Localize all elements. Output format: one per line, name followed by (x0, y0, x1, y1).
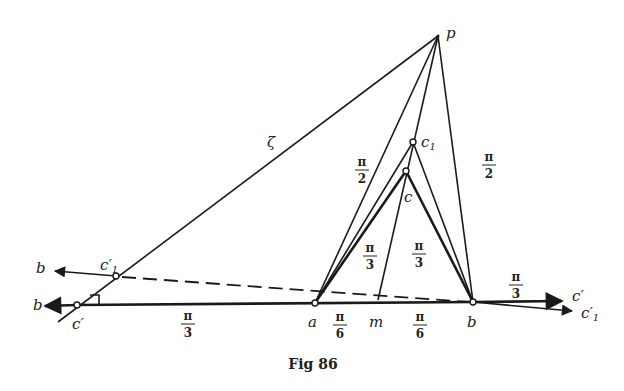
point-a (312, 300, 318, 306)
lower-right-arrow (473, 302, 572, 311)
svg-text:π: π (366, 241, 375, 255)
point-c1 (410, 139, 416, 145)
label-b: b (467, 313, 477, 331)
svg-text:2: 2 (358, 172, 366, 186)
label-zeta: ζ (267, 133, 276, 151)
fig-86-diagram: p c1 c a m b c′ c′1 ζ b b c′ c′1 π 2 π 2… (0, 0, 624, 391)
label-p: p (446, 24, 456, 42)
svg-text:2: 2 (485, 167, 493, 181)
label-c: c (404, 188, 413, 206)
label-b-left-lower: b (33, 296, 43, 314)
svg-text:3: 3 (184, 326, 192, 340)
point-p (437, 35, 440, 38)
label-c1: c1 (421, 133, 436, 152)
svg-text:π: π (512, 270, 521, 284)
angle-pi-3-baseline: π 3 (181, 309, 195, 340)
svg-text:π: π (358, 155, 367, 169)
baseline (77, 302, 473, 305)
label-a: a (308, 313, 317, 331)
label-c-prime: c′ (72, 315, 84, 333)
svg-text:3: 3 (366, 258, 374, 272)
label-b-left-upper: b (36, 259, 46, 277)
point-b (470, 299, 476, 305)
label-c1-prime: c′1 (100, 256, 118, 275)
svg-text:π: π (184, 309, 193, 323)
baseline-right-arrow (473, 301, 562, 302)
line-c1-b (413, 142, 473, 302)
svg-text:6: 6 (416, 327, 424, 341)
svg-text:π: π (336, 310, 345, 324)
svg-text:π: π (415, 239, 424, 253)
svg-text:6: 6 (336, 327, 344, 341)
svg-text:π: π (416, 310, 425, 324)
svg-text:3: 3 (415, 256, 423, 270)
angle-pi-2-right: π 2 (482, 150, 496, 181)
line-c-b (406, 171, 473, 302)
dashed-line-c1prime-b (122, 277, 470, 302)
label-c-prime-right: c′ (572, 287, 584, 305)
baseline-left-arrow (45, 305, 77, 306)
angle-pi-3-right-of-cm: π 3 (412, 239, 426, 270)
angle-pi-2-left: π 2 (355, 155, 369, 186)
line-p-b (438, 36, 473, 302)
point-c (403, 168, 409, 174)
label-c1-prime-right: c′1 (581, 304, 599, 323)
svg-text:3: 3 (512, 287, 520, 301)
svg-text:π: π (485, 150, 494, 164)
angle-pi-6-m-b: π 6 (413, 310, 427, 341)
angle-pi-3-left-of-cm: π 3 (363, 241, 377, 272)
angle-pi-6-a-m: π 6 (333, 310, 347, 341)
label-m: m (369, 313, 383, 331)
figure-caption: Fig 86 (288, 356, 337, 372)
angle-pi-3-at-b: π 3 (509, 270, 523, 301)
point-c-prime (74, 302, 80, 308)
